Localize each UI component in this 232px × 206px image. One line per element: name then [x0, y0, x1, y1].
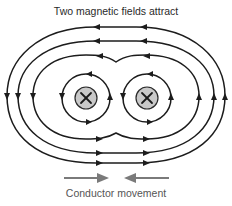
arrowheads-right	[107, 93, 228, 100]
left-conductor	[75, 87, 97, 109]
outer-field-loop-3	[33, 55, 199, 139]
magnetic-field-diagram	[0, 0, 232, 206]
diagram-caption: Conductor movement	[0, 187, 232, 199]
arrowheads-bottom	[86, 119, 153, 166]
outer-field-loop-1	[7, 27, 225, 163]
movement-arrow-right	[64, 173, 109, 183]
arrowheads-top	[86, 24, 153, 77]
movement-arrow-left	[124, 173, 169, 183]
outer-field-loop-2	[18, 41, 214, 153]
arrowheads-left	[4, 93, 65, 100]
right-conductor	[136, 87, 158, 109]
